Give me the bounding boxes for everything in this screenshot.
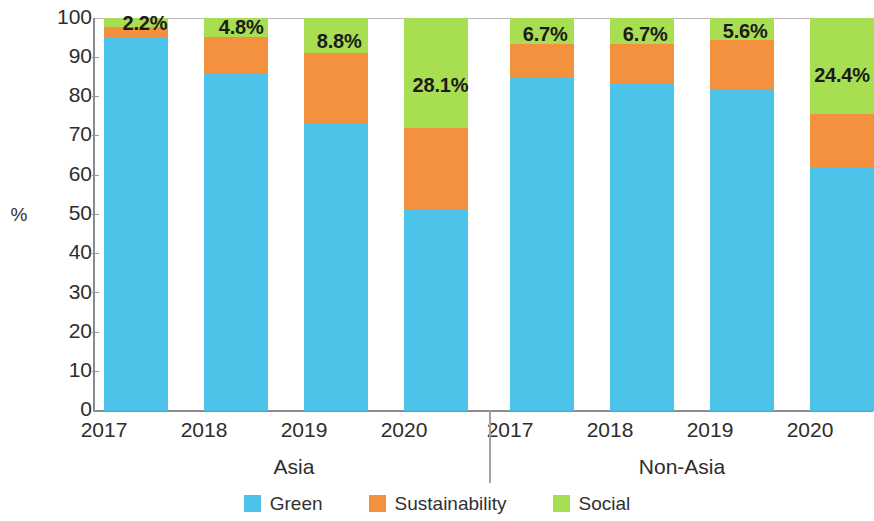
legend-item-social[interactable]: Social — [553, 494, 631, 513]
bar-segment-sustainability[interactable] — [204, 37, 268, 74]
bar-segment-sustainability[interactable] — [510, 44, 574, 77]
y-tick-label: 20 — [40, 320, 92, 341]
bar-segment-green[interactable] — [404, 209, 468, 411]
y-tick-label: 100 — [40, 6, 92, 27]
bar-non-asia-2018[interactable]: 6.7% — [610, 18, 674, 411]
bar-value-label: 24.4% — [814, 64, 870, 87]
y-tick-label: 90 — [40, 45, 92, 66]
bar-segment-green[interactable] — [810, 167, 874, 411]
bar-segment-sustainability[interactable] — [304, 53, 368, 125]
chart-legend: Green Sustainability Social — [0, 494, 874, 513]
y-tick-label: 50 — [40, 202, 92, 223]
bar-segment-sustainability[interactable] — [404, 128, 468, 209]
y-tick-label: 0 — [40, 398, 92, 419]
bar-segment-green[interactable] — [610, 83, 674, 411]
bar-non-asia-2017[interactable]: 6.7% — [510, 18, 574, 411]
y-tick-label: 40 — [40, 241, 92, 262]
legend-swatch-sustainability-icon — [369, 495, 386, 512]
x-tick-label-asia-2020: 2020 — [359, 418, 449, 442]
bar-value-label: 28.1% — [413, 74, 469, 97]
bar-segment-sustainability[interactable] — [810, 114, 874, 167]
legend-swatch-green-icon — [244, 495, 261, 512]
y-axis-title: % — [4, 204, 34, 226]
bar-segment-green[interactable] — [204, 74, 268, 411]
bar-asia-2019[interactable]: 8.8% — [304, 18, 368, 411]
bar-segment-green[interactable] — [710, 89, 774, 411]
legend-label: Green — [270, 494, 323, 513]
y-tick-label: 80 — [40, 84, 92, 105]
legend-item-sustainability[interactable]: Sustainability — [369, 494, 507, 513]
bar-segment-green[interactable] — [104, 38, 168, 411]
y-tick-label: 10 — [40, 359, 92, 380]
stacked-bar-chart: % 100 90 80 70 60 50 40 30 20 10 0 2.2% — [0, 0, 874, 521]
x-tick-label-asia-2017: 2017 — [59, 418, 149, 442]
legend-swatch-social-icon — [553, 495, 570, 512]
bar-segment-sustainability[interactable] — [610, 44, 674, 83]
group-separator — [489, 411, 491, 483]
bar-value-label: 2.2% — [123, 12, 168, 35]
x-tick-label-non-asia-2019: 2019 — [665, 418, 755, 442]
y-tick-label: 60 — [40, 163, 92, 184]
x-tick-label-asia-2019: 2019 — [259, 418, 349, 442]
x-tick-label-non-asia-2020: 2020 — [765, 418, 855, 442]
y-tick-label: 70 — [40, 123, 92, 144]
bar-value-label: 4.8% — [219, 16, 264, 39]
bar-value-label: 8.8% — [317, 30, 362, 53]
bar-asia-2017[interactable]: 2.2% — [104, 18, 168, 411]
legend-label: Social — [579, 494, 631, 513]
y-axis-tick-group: 100 90 80 70 60 50 40 30 20 10 0 — [34, 0, 92, 521]
bar-non-asia-2020[interactable]: 24.4% — [810, 18, 874, 411]
bar-segment-sustainability[interactable] — [710, 40, 774, 89]
legend-item-green[interactable]: Green — [244, 494, 323, 513]
x-tick-label-non-asia-2018: 2018 — [565, 418, 655, 442]
bar-value-label: 6.7% — [523, 23, 568, 46]
bar-value-label: 6.7% — [623, 23, 668, 46]
bar-value-label: 5.6% — [723, 20, 768, 43]
group-label-non-asia: Non-Asia — [552, 455, 812, 479]
bar-asia-2020[interactable]: 28.1% — [404, 18, 468, 411]
bar-segment-green[interactable] — [510, 77, 574, 411]
x-tick-label-asia-2018: 2018 — [159, 418, 249, 442]
x-tick-label-non-asia-2017: 2017 — [465, 418, 555, 442]
group-label-asia: Asia — [164, 455, 424, 479]
bar-segment-green[interactable] — [304, 124, 368, 411]
bar-asia-2018[interactable]: 4.8% — [204, 18, 268, 411]
bar-non-asia-2019[interactable]: 5.6% — [710, 18, 774, 411]
plot-area: 2.2% 4.8% 8.8% 28.1% 6.7% — [93, 18, 874, 411]
legend-label: Sustainability — [395, 494, 507, 513]
y-tick-label: 30 — [40, 281, 92, 302]
